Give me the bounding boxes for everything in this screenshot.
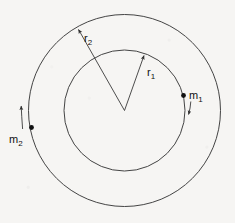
velocity-arrow-m1 <box>189 102 191 115</box>
physics-orbit-diagram: r2 r1 m1 m2 <box>0 0 235 223</box>
radius-label-r2: r2 <box>84 32 93 47</box>
mass-label-m2-base: m <box>9 133 18 145</box>
mass-label-m2: m2 <box>9 133 23 148</box>
mass-label-m1-base: m <box>189 89 198 101</box>
mass-label-m1-subscript: 1 <box>198 95 203 104</box>
diagram-canvas: r2 r1 m1 m2 <box>0 0 235 223</box>
mass-label-m2-subscript: 2 <box>18 139 23 148</box>
mass-dot-m2 <box>29 125 34 130</box>
radius-label-r1: r1 <box>147 66 156 81</box>
radius-label-r1-subscript: 1 <box>151 72 156 81</box>
radius-label-r2-subscript: 2 <box>88 38 93 47</box>
velocity-arrow-m2 <box>21 106 22 129</box>
radius-r1-arrow <box>125 56 145 111</box>
mass-dot-m1 <box>181 93 186 98</box>
